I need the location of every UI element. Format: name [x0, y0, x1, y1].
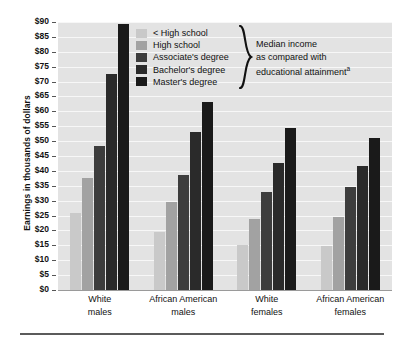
bar	[190, 132, 201, 290]
y-tick-mark	[52, 37, 56, 38]
y-tick-mark	[52, 230, 56, 231]
bar	[178, 175, 189, 290]
y-tick-label: $80	[35, 46, 49, 56]
y-tick-label: $75	[35, 61, 49, 71]
bar	[118, 24, 129, 291]
y-tick-mark	[52, 82, 56, 83]
annotation-line: educational attainmenta	[256, 63, 350, 79]
x-axis-label-line: females	[225, 306, 309, 319]
annotation-line: as compared with	[256, 51, 350, 64]
legend-item: High school	[136, 39, 229, 51]
bar	[273, 163, 284, 290]
bar	[321, 246, 332, 290]
legend-item: Bachelor's degree	[136, 64, 229, 76]
y-tick-label: $45	[35, 150, 49, 160]
bar	[357, 166, 368, 290]
annotation-line: Median income	[256, 38, 350, 51]
y-tick-label: $5	[40, 269, 49, 279]
y-tick-mark	[52, 171, 56, 172]
legend-swatch	[136, 53, 147, 62]
bar	[82, 178, 93, 290]
x-axis-label-line: males	[58, 306, 142, 319]
bar	[261, 192, 272, 290]
bar-group	[70, 22, 129, 290]
x-axis-label-line: African American	[142, 293, 226, 306]
y-tick-mark	[52, 22, 56, 23]
x-axis-label-line: African American	[309, 293, 393, 306]
y-tick-label: $85	[35, 31, 49, 41]
y-tick-mark	[52, 111, 56, 112]
y-axis-ticks: $90$85$80$75$70$65$60$55$50$45$40$35$30$…	[0, 22, 58, 290]
legend-label: Bachelor's degree	[153, 65, 225, 75]
y-tick-label: $25	[35, 210, 49, 220]
y-tick-label: $30	[35, 195, 49, 205]
bar	[345, 187, 356, 290]
y-tick-mark	[52, 275, 56, 276]
y-tick-label: $10	[35, 254, 49, 264]
y-tick-mark	[52, 260, 56, 261]
legend-annotation: Median incomeas compared witheducational…	[256, 38, 350, 79]
y-tick-mark	[52, 52, 56, 53]
y-tick-mark	[52, 96, 56, 97]
bar	[106, 74, 117, 290]
legend-swatch	[136, 41, 147, 50]
legend-item: Master's degree	[136, 76, 229, 88]
y-tick-label: $55	[35, 120, 49, 130]
y-tick-mark	[52, 290, 56, 291]
y-tick-mark	[52, 156, 56, 157]
y-tick-mark	[52, 67, 56, 68]
legend-label: Master's degree	[153, 77, 217, 87]
x-axis-label: African Americanfemales	[309, 293, 393, 318]
x-axis-label-line: White	[58, 293, 142, 306]
bar	[202, 102, 213, 290]
y-tick-label: $35	[35, 180, 49, 190]
y-tick-label: $50	[35, 135, 49, 145]
y-tick-label: $90	[35, 16, 49, 26]
y-tick-mark	[52, 201, 56, 202]
legend-swatch	[136, 77, 147, 86]
bar	[369, 138, 380, 290]
bar	[94, 146, 105, 290]
legend-swatch	[136, 29, 147, 38]
y-tick-label: $40	[35, 165, 49, 175]
bar	[249, 219, 260, 290]
legend-label: < High school	[153, 28, 208, 38]
legend-item: < High school	[136, 27, 229, 39]
bar	[333, 217, 344, 290]
x-axis-label: African Americanmales	[142, 293, 226, 318]
bar	[285, 128, 296, 290]
chart-figure: Earnings in thousands of dollars $90$85$…	[0, 0, 402, 347]
footnote-marker: a	[347, 65, 351, 72]
bar	[154, 232, 165, 290]
legend-label: Associate's degree	[153, 52, 229, 62]
x-axis-label-line: White	[225, 293, 309, 306]
y-tick-label: $65	[35, 90, 49, 100]
y-tick-mark	[52, 186, 56, 187]
y-tick-mark	[52, 141, 56, 142]
legend: < High schoolHigh schoolAssociate's degr…	[136, 27, 229, 88]
y-tick-label: $70	[35, 76, 49, 86]
bar	[70, 213, 81, 290]
y-tick-mark	[52, 245, 56, 246]
y-tick-label: $20	[35, 224, 49, 234]
bottom-divider	[20, 333, 384, 335]
x-axis-label-line: males	[142, 306, 226, 319]
bar	[166, 202, 177, 290]
x-axis-label-line: females	[309, 306, 393, 319]
y-tick-mark	[52, 216, 56, 217]
legend-item: Associate's degree	[136, 51, 229, 63]
brace-bracket	[238, 25, 254, 89]
legend-label: High school	[153, 40, 200, 50]
y-tick-label: $15	[35, 239, 49, 249]
legend-swatch	[136, 65, 147, 74]
y-tick-label: $60	[35, 105, 49, 115]
x-axis-labels: WhitemalesAfrican AmericanmalesWhitefema…	[58, 293, 392, 327]
bar	[237, 245, 248, 290]
y-tick-mark	[52, 126, 56, 127]
x-axis-label: Whitefemales	[225, 293, 309, 318]
gridline	[58, 290, 392, 291]
y-tick-label: $0	[40, 284, 49, 294]
x-axis-label: Whitemales	[58, 293, 142, 318]
